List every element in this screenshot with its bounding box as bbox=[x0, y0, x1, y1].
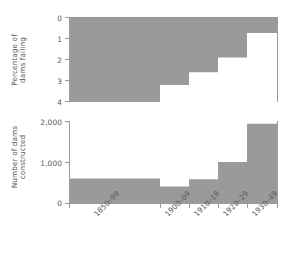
top-y-tick-label-2: 2 bbox=[40, 56, 62, 65]
bottom-y-tick-label-2000: 2,000 bbox=[26, 118, 62, 127]
top-y-tickmark-2 bbox=[65, 59, 69, 60]
top-panel-right-spine bbox=[277, 17, 278, 102]
top-y-tick-label-4: 4 bbox=[40, 98, 62, 107]
percentage-failing-step-area bbox=[70, 17, 278, 102]
bottom-panel-right-spine bbox=[277, 121, 278, 203]
x-tickmark-1 bbox=[160, 204, 161, 208]
bottom-y-tickmark-1000 bbox=[65, 162, 69, 163]
top-y-tickmark-1 bbox=[65, 38, 69, 39]
bottom-y-tick-label-1000: 1,000 bbox=[26, 159, 62, 168]
top-y-tickmark-4 bbox=[65, 101, 69, 102]
top-panel-y-axis-title-line2: dams failing bbox=[19, 10, 27, 110]
top-y-tickmark-0 bbox=[65, 17, 69, 18]
x-tickmark-0 bbox=[69, 204, 70, 208]
top-y-tick-label-0: 0 bbox=[40, 14, 62, 23]
top-y-tickmark-3 bbox=[65, 80, 69, 81]
bottom-y-tick-label-0: 0 bbox=[26, 199, 62, 208]
top-y-tick-label-3: 3 bbox=[40, 77, 62, 86]
x-tickmark-5 bbox=[277, 204, 278, 208]
x-tickmark-2 bbox=[189, 204, 190, 208]
percentage-failing-area-path bbox=[70, 17, 277, 102]
bottom-y-tickmark-2000 bbox=[65, 121, 69, 122]
x-tickmark-3 bbox=[218, 204, 219, 208]
top-y-tick-label-1: 1 bbox=[40, 35, 62, 44]
top-panel-y-axis-title: Percentage of dams failing bbox=[11, 10, 28, 110]
top-panel-plot-area bbox=[70, 17, 278, 102]
dams-failure-and-construction-figure: Percentage of dams failing 0 1 2 3 4 Num… bbox=[0, 0, 296, 258]
x-tickmark-4 bbox=[247, 204, 248, 208]
